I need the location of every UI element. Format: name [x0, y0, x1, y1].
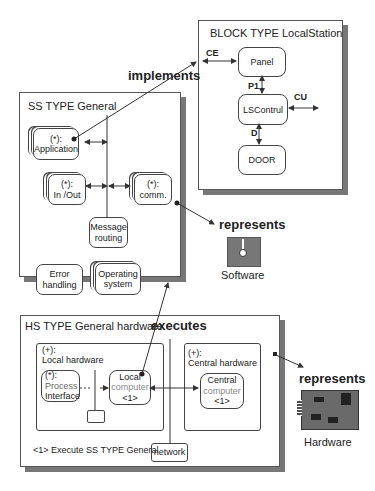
central-computer-line2: computer	[203, 386, 241, 396]
implements-label: implements	[128, 68, 200, 83]
hardware-label: Hardware	[304, 436, 352, 448]
process-interface-node[interactable]: (*): Process Interface	[41, 370, 80, 402]
lscontrol-block[interactable]: LSContrul	[238, 94, 288, 125]
executes-label: executes	[151, 318, 207, 333]
process-interface-line2: Interface	[45, 391, 80, 401]
local-hardware-label: Local hardware	[42, 355, 104, 365]
ss-type-title: SS TYPE General	[28, 100, 116, 112]
inout-label: In /Out	[53, 190, 80, 200]
error-handling-line2: handling	[42, 280, 76, 290]
central-computer-ref: <1>	[214, 396, 230, 406]
local-hardware-multiplicity: (+):	[42, 345, 56, 355]
message-routing-line2: routing	[95, 233, 123, 243]
comm-process[interactable]: (*): comm.	[134, 174, 172, 205]
central-computer-node[interactable]: Central computer <1>	[200, 373, 244, 409]
block-type-title: BLOCK TYPE LocalStation	[210, 27, 342, 39]
footnote-execute-ss-type: <1> Execute SS TYPE General	[33, 445, 158, 455]
hardware-icon	[297, 390, 357, 430]
local-computer-line2: computer	[111, 382, 149, 392]
process-interface-line1: Process	[45, 381, 78, 391]
software-icon	[227, 237, 261, 267]
panel-label: Panel	[250, 57, 273, 67]
message-routing-line1: Message	[90, 222, 127, 232]
represents-software-label: represents	[219, 217, 285, 232]
channel-cu-label: CU	[294, 92, 307, 102]
operating-system-line2: system	[104, 279, 133, 289]
door-label: DOOR	[249, 155, 276, 165]
local-computer-node[interactable]: Local computer <1>	[109, 370, 151, 405]
application-multiplicity: (*):	[50, 134, 62, 144]
message-routing-process[interactable]: Message routing	[89, 217, 128, 248]
error-handling-process[interactable]: Error handling	[36, 264, 83, 295]
inout-multiplicity: (*):	[61, 179, 73, 189]
application-process[interactable]: (*): Application	[33, 128, 79, 160]
channel-ce-label: CE	[206, 48, 219, 58]
comm-label: comm.	[140, 190, 167, 200]
panel-block[interactable]: Panel	[238, 47, 286, 77]
represents-hardware-label: represents	[299, 371, 365, 386]
operating-system-line1: Operating	[98, 269, 138, 279]
operating-system-process[interactable]: Operating system	[95, 263, 141, 295]
process-interface-multiplicity: (*):	[45, 370, 57, 380]
lscontrol-label: LSContrul	[243, 105, 283, 115]
central-hardware-multiplicity: (+):	[188, 348, 202, 358]
comm-multiplicity: (*):	[147, 179, 159, 189]
central-computer-line1: Central	[207, 375, 236, 385]
inout-process[interactable]: (*): In /Out	[48, 174, 86, 205]
channel-d-label: D	[251, 128, 258, 138]
local-computer-ref: <1>	[122, 393, 138, 403]
local-bus-terminal	[87, 410, 105, 423]
hs-type-title: HS TYPE General hardware	[25, 320, 163, 332]
central-hardware-label: Central hardware	[188, 358, 257, 368]
network-label: network	[154, 447, 186, 457]
error-handling-line1: Error	[50, 269, 70, 279]
application-label: Application	[34, 144, 78, 154]
door-block[interactable]: DOOR	[238, 145, 286, 175]
channel-p1-label: P1	[248, 81, 259, 91]
local-computer-line1: Local	[119, 372, 141, 382]
software-label: Software	[221, 269, 264, 281]
